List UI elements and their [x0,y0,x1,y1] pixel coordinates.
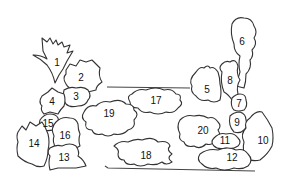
label-10: 10 [257,136,268,146]
label-12: 12 [226,153,237,163]
label-15: 15 [42,119,53,129]
label-1: 1 [54,58,60,68]
label-7: 7 [236,99,242,109]
label-11: 11 [220,136,230,146]
label-3: 3 [73,92,79,102]
label-18: 18 [140,151,151,161]
plant-12 [198,148,251,170]
label-13: 13 [58,153,69,163]
label-9: 9 [234,118,240,128]
label-5: 5 [204,85,210,95]
label-8: 8 [227,76,233,86]
planting-plan-diagram: 1 2 3 4 5 6 7 8 9 10 11 12 13 14 15 16 1… [0,0,294,188]
label-16: 16 [59,131,70,141]
label-19: 19 [103,109,114,119]
label-6: 6 [239,37,245,47]
label-17: 17 [150,96,161,106]
label-20: 20 [197,126,208,136]
label-14: 14 [28,139,39,149]
label-4: 4 [49,97,55,107]
label-2: 2 [78,73,84,83]
